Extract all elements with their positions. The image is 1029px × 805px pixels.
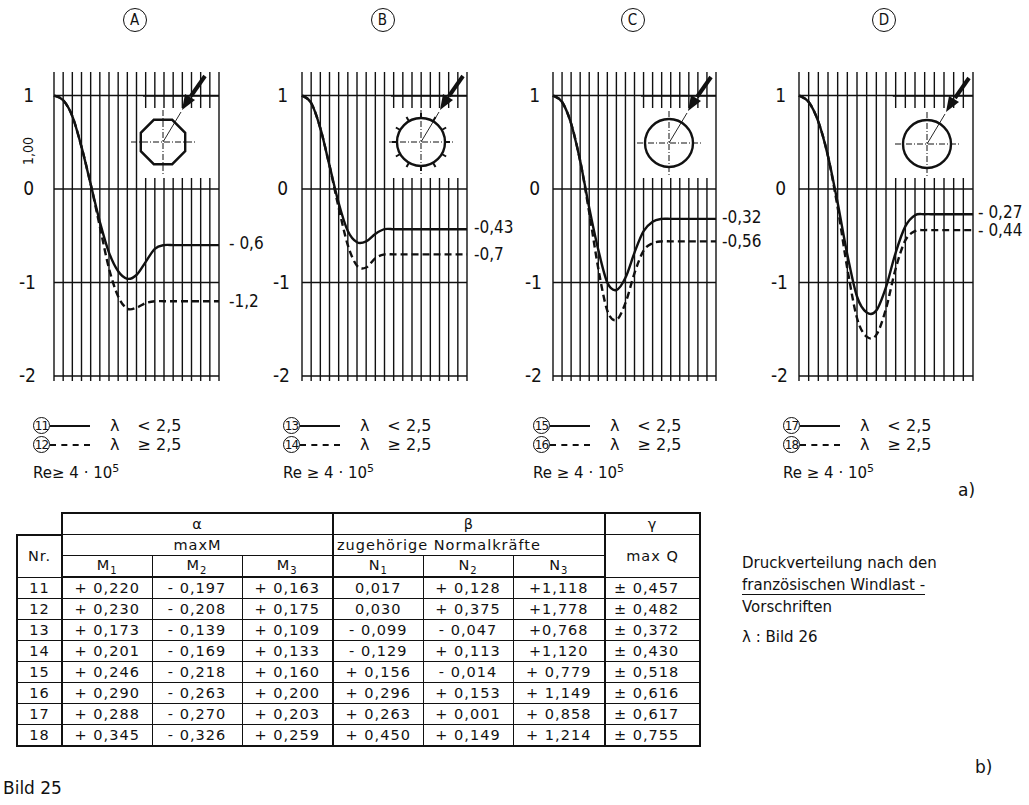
legend-panel-a: 11λ<2,5 12λ≥2,5 Re≥ 4 · 105 — [33, 416, 181, 482]
lambda-symbol: λ — [110, 436, 132, 454]
cell-n2: + 0,149 — [423, 725, 513, 747]
col-m1: M1 — [62, 556, 152, 578]
row-number: 14 — [17, 641, 62, 662]
cell-m3: + 0,109 — [242, 620, 333, 641]
cell-n3: +1,118 — [513, 577, 605, 599]
series-number-badge: 17 — [783, 417, 800, 434]
col-m2: M2 — [152, 556, 242, 578]
cell-n1: - 0,099 — [333, 620, 423, 641]
panel-label-b: B — [371, 8, 395, 32]
lambda-symbol: λ — [360, 417, 382, 435]
series-number-badge: 13 — [283, 417, 300, 434]
col-n3: N3 — [513, 556, 605, 578]
y-tick-label: -2 — [760, 364, 788, 386]
threshold-value: 2,5 — [906, 436, 931, 454]
cell-n1: + 0,156 — [333, 662, 423, 683]
cell-m1: + 0,220 — [62, 577, 152, 599]
y-tick-label: -2 — [262, 364, 290, 386]
y-tick-label: 0 — [20, 177, 34, 199]
threshold-value: 2,5 — [906, 417, 931, 435]
cell-q: ± 0,616 — [605, 683, 700, 704]
row-number: 11 — [17, 577, 62, 599]
legend-panel-d: 17λ<2,5 18λ≥2,5 Re ≥ 4 · 105 — [783, 416, 931, 482]
cell-n3: +0,768 — [513, 620, 605, 641]
cell-n1: 0,017 — [333, 577, 423, 599]
solid-line-swatch — [50, 425, 90, 427]
cell-m1: + 0,201 — [62, 641, 152, 662]
cell-m1: + 0,230 — [62, 599, 152, 620]
y-tick-label: 1 — [772, 84, 786, 106]
threshold-value: 2,5 — [156, 436, 181, 454]
threshold-value: 2,5 — [156, 417, 181, 435]
chart-panel-d — [799, 72, 973, 381]
series-number-badge: 18 — [783, 436, 800, 453]
table-row: 17+ 0,288- 0,270+ 0,203+ 0,263+ 0,001+ 0… — [17, 704, 700, 725]
cell-n2: + 0,001 — [423, 704, 513, 725]
end-value-solid: -0,43 — [474, 217, 514, 237]
cell-m1: + 0,290 — [62, 683, 152, 704]
y-tick-label: 0 — [526, 177, 540, 199]
table-row: 15+ 0,246- 0,218+ 0,160+ 0,156- 0,014+ 0… — [17, 662, 700, 683]
reynolds-condition: Re ≥ 4 · 105 — [533, 460, 681, 482]
caption-line-2: französischen Windlast - — [742, 576, 925, 595]
series-number-badge: 16 — [533, 436, 550, 453]
y-tick-label: 1 — [526, 84, 540, 106]
reynolds-condition: Re≥ 4 · 105 — [33, 460, 181, 482]
cell-m1: + 0,173 — [62, 620, 152, 641]
col-n2: N2 — [423, 556, 513, 578]
cell-n2: + 0,153 — [423, 683, 513, 704]
y-tick-label: -1 — [760, 271, 788, 293]
col-n1: N1 — [333, 556, 423, 578]
y-tick-label: 1 — [274, 84, 288, 106]
cell-n3: + 1,214 — [513, 725, 605, 747]
chart-panel-c — [553, 72, 716, 381]
series-number-badge: 12 — [33, 436, 50, 453]
threshold-value: 2,5 — [406, 417, 431, 435]
part-a-label: a) — [958, 480, 975, 500]
table-row: 14+ 0,201- 0,169+ 0,133- 0,129+ 0,113+1,… — [17, 641, 700, 662]
cell-q: ± 0,755 — [605, 725, 700, 747]
cell-m1: + 0,345 — [62, 725, 152, 747]
row-number: 17 — [17, 704, 62, 725]
y-tick-label: 0 — [772, 177, 786, 199]
y-tick-label: -1 — [514, 271, 542, 293]
cell-m3: + 0,203 — [242, 704, 333, 725]
cell-m2: - 0,326 — [152, 725, 242, 747]
cell-m2: - 0,169 — [152, 641, 242, 662]
end-value-solid: -0,32 — [722, 207, 762, 227]
end-value-dashed: - 0,44 — [978, 220, 1022, 240]
caption-line-1: Druckverteilung nach den — [742, 552, 937, 574]
cell-n3: +1,120 — [513, 641, 605, 662]
col-m3: M3 — [242, 556, 333, 578]
cell-n2: + 0,375 — [423, 599, 513, 620]
y-tick-label: -2 — [514, 364, 542, 386]
alpha-header: α — [62, 513, 333, 535]
threshold-value: 2,5 — [656, 417, 681, 435]
operator: < — [882, 417, 906, 435]
cell-n1: + 0,450 — [333, 725, 423, 747]
beta-header: β — [333, 513, 605, 535]
operator: ≥ — [632, 436, 656, 454]
series-number-badge: 15 — [533, 417, 550, 434]
cell-q: ± 0,372 — [605, 620, 700, 641]
lambda-symbol: λ — [110, 417, 132, 435]
operator: < — [632, 417, 656, 435]
series-number-badge: 11 — [33, 417, 50, 434]
y-tick-label: -2 — [8, 364, 36, 386]
caption: Druckverteilung nach den französischen W… — [742, 552, 937, 648]
lambda-symbol: λ — [860, 417, 882, 435]
cell-m2: - 0,218 — [152, 662, 242, 683]
lambda-symbol: λ — [360, 436, 382, 454]
y-tick-label: -1 — [8, 271, 36, 293]
operator: < — [382, 417, 406, 435]
table-row: 11+ 0,220- 0,197+ 0,1630,017+ 0,128+1,11… — [17, 577, 700, 599]
nr-header: Nr. — [17, 535, 62, 578]
cell-m2: - 0,197 — [152, 577, 242, 599]
operator: ≥ — [382, 436, 406, 454]
cell-n1: + 0,263 — [333, 704, 423, 725]
end-value-solid: - 0,6 — [229, 233, 264, 253]
cell-m3: + 0,163 — [242, 577, 333, 599]
cell-n2: + 0,128 — [423, 577, 513, 599]
caption-lambda-reference: λ : Bild 26 — [742, 626, 937, 648]
series-number-badge: 14 — [283, 436, 300, 453]
